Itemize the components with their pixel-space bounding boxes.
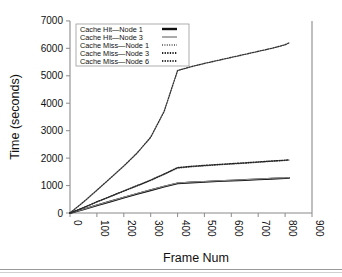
y-tick-label: 1000 — [41, 180, 64, 191]
x-tick-label: 100 — [99, 220, 110, 237]
y-axis-title: Time (seconds) — [8, 74, 22, 160]
data-series-layer — [70, 43, 289, 213]
footer-divider — [0, 269, 342, 270]
line-chart: Time (seconds) 0 1000 2000 3000 4000 500… — [0, 0, 342, 277]
y-tick-label: 0 — [57, 208, 63, 219]
chart-figure: Time (seconds) 0 1000 2000 3000 4000 500… — [0, 0, 342, 277]
x-tick-label: 800 — [287, 220, 298, 237]
x-tick-label: 600 — [233, 220, 244, 237]
y-tick-label: 2000 — [41, 153, 64, 164]
x-tick-label: 0 — [72, 220, 83, 226]
y-tick-labels: 0 1000 2000 3000 4000 5000 6000 7000 — [41, 15, 64, 218]
x-tick-label: 400 — [180, 220, 191, 237]
x-tick-label: 500 — [206, 220, 217, 237]
series-line — [70, 43, 289, 213]
y-tick-label: 3000 — [41, 125, 64, 136]
series-line — [70, 160, 289, 213]
y-tick-label: 7000 — [41, 15, 64, 26]
x-tick-label: 900 — [314, 220, 325, 237]
x-axis-title: Frame Num — [163, 251, 229, 265]
x-tick-labels: 0 100 200 300 400 500 600 700 800 900 — [72, 220, 325, 237]
legend-label: Cache Miss—Node 6 — [80, 57, 149, 66]
y-tick-label: 6000 — [41, 43, 64, 54]
y-ticks — [66, 21, 70, 213]
y-tick-label: 4000 — [41, 98, 64, 109]
x-tick-label: 300 — [153, 220, 164, 237]
footer-divider-secondary — [0, 272, 342, 273]
series-line — [70, 160, 289, 213]
x-tick-label: 700 — [260, 220, 271, 237]
chart-legend: Cache Hit—Node 1 Cache Hit—Node 3 Cache … — [76, 24, 189, 66]
x-ticks — [70, 213, 312, 217]
y-tick-label: 5000 — [41, 70, 64, 81]
x-tick-label: 200 — [126, 220, 137, 237]
series-line — [70, 178, 289, 213]
